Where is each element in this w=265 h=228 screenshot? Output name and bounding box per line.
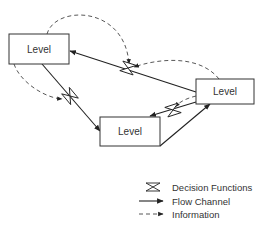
legend-item-flow-channel: Flow Channel [139,196,230,207]
info-topleft-to-valve-left [14,64,62,99]
legend-item-decision-functions: Decision Functions [146,182,253,193]
level-label: Level [118,126,142,137]
flow-right-to-topleft [70,51,196,92]
decision-function-icon [165,103,181,117]
legend-label: Decision Functions [172,182,253,193]
flow-topleft-to-bottom [42,64,100,131]
level-label: Level [27,44,51,55]
legend: Decision Functions Flow Channel Informat… [139,182,253,220]
level-box-top-left: Level [9,34,69,64]
legend-item-information: Information [139,209,220,220]
legend-label: Information [172,209,220,220]
decision-function-icon [146,183,160,191]
level-box-right: Level [196,79,254,104]
legend-label: Flow Channel [172,196,230,207]
flow-diagram: Level Level Level Decision Functions Flo… [0,0,265,228]
level-box-bottom: Level [100,117,160,146]
level-label: Level [213,86,237,97]
